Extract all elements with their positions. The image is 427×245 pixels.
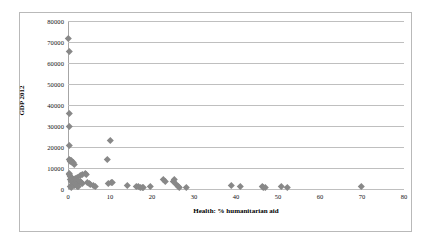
x-tick-label-10: 10	[95, 193, 125, 200]
x-tick-label-20: 20	[137, 193, 167, 200]
y-tick-label-40000: 40000	[22, 102, 64, 109]
gridline-y-50000	[68, 84, 404, 85]
y-tick-label-20000: 20000	[22, 144, 64, 151]
data-point	[107, 137, 113, 143]
x-tick-label-40: 40	[221, 193, 251, 200]
gridline-y-20000	[68, 147, 404, 148]
y-tick-label-70000: 70000	[22, 39, 64, 46]
data-point	[65, 35, 71, 41]
x-tick-label-30: 30	[179, 193, 209, 200]
data-point	[83, 171, 89, 177]
x-tick-label-50: 50	[263, 193, 293, 200]
data-point	[71, 161, 77, 167]
y-axis-title: GDP 2012	[18, 61, 27, 141]
gridline-y-0	[68, 189, 404, 190]
y-tick-label-60000: 60000	[22, 60, 64, 67]
y-tick-label-30000: 30000	[22, 123, 64, 130]
x-axis-tick-labels: 01020304050607080	[0, 193, 427, 203]
gridline-y-80000	[68, 21, 404, 22]
scatter-chart-figure: 0100002000030000400005000060000700008000…	[0, 0, 427, 245]
gridline-y-70000	[68, 42, 404, 43]
plot-area	[68, 21, 404, 189]
x-tick-label-80: 80	[389, 193, 419, 200]
gridline-y-60000	[68, 63, 404, 64]
gridline-y-30000	[68, 126, 404, 127]
x-tick-label-0: 0	[53, 193, 83, 200]
data-point	[124, 182, 130, 188]
gridline-y-40000	[68, 105, 404, 106]
gridline-y-10000	[68, 168, 404, 169]
y-tick-label-0: 0	[22, 186, 64, 193]
y-axis-tick-labels: 0100002000030000400005000060000700008000…	[20, 0, 64, 245]
data-point	[228, 182, 234, 188]
y-tick-label-50000: 50000	[22, 81, 64, 88]
y-tick-label-10000: 10000	[22, 165, 64, 172]
x-axis-title: Health: % humanitarian aid	[68, 207, 404, 216]
data-point	[104, 156, 110, 162]
y-tick-label-80000: 80000	[22, 18, 64, 25]
x-tick-label-60: 60	[305, 193, 335, 200]
data-point	[162, 178, 168, 184]
x-tick-label-70: 70	[347, 193, 377, 200]
